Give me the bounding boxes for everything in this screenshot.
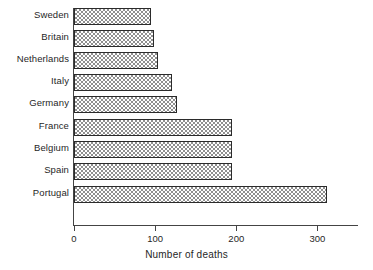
bar-chart: Sweden Britain Netherlands Italy Germany…	[0, 0, 373, 270]
category-label-germany: Germany	[0, 98, 69, 108]
bar-sweden	[74, 8, 151, 25]
bar-belgium	[74, 141, 232, 158]
category-label-france: France	[0, 121, 69, 131]
bar-britain	[74, 30, 154, 47]
bar-germany	[74, 96, 177, 113]
x-tick-100	[155, 226, 156, 231]
bar-italy	[74, 74, 172, 91]
x-tick-300	[317, 226, 318, 231]
category-label-italy: Italy	[0, 76, 69, 86]
category-label-portugal: Portugal	[0, 188, 69, 198]
x-tick-label-300: 300	[297, 233, 337, 244]
x-tick-label-100: 100	[135, 233, 175, 244]
category-label-sweden: Sweden	[0, 10, 69, 20]
category-label-britain: Britain	[0, 32, 69, 42]
category-label-belgium: Belgium	[0, 143, 69, 153]
x-tick-200	[236, 226, 237, 231]
x-axis-title: Number of deaths	[0, 249, 373, 261]
category-label-netherlands: Netherlands	[0, 54, 69, 64]
y-axis-line	[73, 8, 74, 225]
bar-netherlands	[74, 52, 158, 69]
bar-spain	[74, 163, 232, 180]
plot-area	[74, 8, 358, 225]
bar-france	[74, 119, 232, 136]
x-tick-label-0: 0	[54, 233, 94, 244]
category-axis: Sweden Britain Netherlands Italy Germany…	[0, 8, 69, 211]
x-tick-0	[74, 226, 75, 231]
category-label-spain: Spain	[0, 165, 69, 175]
bar-portugal	[74, 186, 327, 203]
x-tick-label-200: 200	[216, 233, 256, 244]
x-axis-line	[73, 225, 358, 226]
